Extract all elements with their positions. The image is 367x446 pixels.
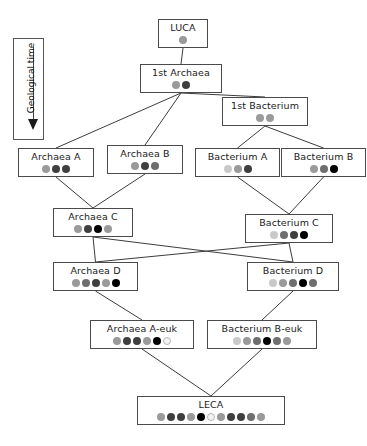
- gene-set: [143, 412, 279, 421]
- gene-dot-gray: [234, 165, 242, 173]
- gene-dot-dark: [52, 165, 60, 173]
- node-bacterium_d[interactable]: Bacterium D: [247, 262, 339, 291]
- geological-time-axis: Geological time: [13, 38, 44, 140]
- gene-set: [59, 224, 127, 233]
- gene-set: [253, 278, 333, 287]
- gene-dot-light: [233, 337, 241, 345]
- gene-dot-gray: [279, 279, 287, 287]
- gene-set: [59, 278, 132, 287]
- gene-dot-black: [112, 279, 120, 287]
- diagram-canvas: Geological time LUCA1st Archaea1st Bacte…: [0, 0, 367, 446]
- gene-set: [96, 336, 188, 345]
- gene-dot-black: [153, 337, 161, 345]
- gene-dot-white: [207, 413, 215, 421]
- node-label: Archaea A-euk: [96, 323, 188, 334]
- gene-dot-dark: [177, 413, 185, 421]
- gene-dot-dark: [182, 81, 190, 89]
- gene-dot-dark: [227, 413, 235, 421]
- gene-set: [251, 230, 327, 239]
- gene-dot-dark: [244, 165, 252, 173]
- node-label: Bacterium C: [251, 217, 327, 228]
- gene-dot-gray: [131, 162, 139, 170]
- gene-dot-dark: [123, 337, 131, 345]
- gene-dot-gray: [283, 337, 291, 345]
- node-label: Bacterium D: [253, 265, 333, 276]
- node-label: LECA: [143, 399, 279, 410]
- gene-dot-black: [197, 413, 205, 421]
- gene-dot-black: [94, 225, 102, 233]
- edge-bacterium_b-to-bacterium_c: [289, 177, 324, 214]
- edge-bacterium_d-to-bacterium_euk: [262, 291, 293, 320]
- edge-archaea_d-to-archaea_euk: [96, 291, 143, 320]
- gene-dot-light: [269, 279, 277, 287]
- node-label: Archaea A: [24, 151, 88, 162]
- gene-dot-mid: [309, 279, 317, 287]
- node-archaea_d[interactable]: Archaea D: [53, 262, 138, 291]
- node-label: Archaea C: [59, 211, 127, 222]
- node-first_archaea[interactable]: 1st Archaea: [140, 64, 222, 93]
- gene-set: [201, 164, 274, 173]
- gene-dot-mid: [82, 279, 90, 287]
- gene-dot-dark: [290, 231, 298, 239]
- node-label: Archaea D: [59, 265, 132, 276]
- edge-bacterium_c-to-bacterium_d: [289, 243, 293, 262]
- node-bacterium_a[interactable]: Bacterium A: [195, 148, 280, 177]
- edge-archaea_a-to-archaea_c: [56, 177, 93, 208]
- node-label: Bacterium A: [201, 151, 274, 162]
- gene-dot-light: [270, 231, 278, 239]
- gene-dot-gray: [113, 337, 121, 345]
- gene-dot-gray: [179, 36, 187, 44]
- gene-dot-gray: [72, 279, 80, 287]
- edge-luca-to-first_archaea: [181, 48, 183, 64]
- node-leca[interactable]: LECA: [137, 396, 285, 425]
- edge-bacterium_euk-to-leca: [211, 349, 262, 396]
- node-archaea_euk[interactable]: Archaea A-euk: [90, 320, 194, 349]
- node-archaea_a[interactable]: Archaea A: [18, 148, 94, 177]
- gene-dot-gray: [104, 225, 112, 233]
- node-first_bact[interactable]: 1st Bacterium: [222, 97, 308, 126]
- node-luca[interactable]: LUCA: [158, 19, 208, 48]
- gene-dot-mid: [151, 162, 159, 170]
- gene-dot-dark: [62, 165, 70, 173]
- node-label: Archaea B: [113, 148, 177, 159]
- gene-dot-black: [330, 165, 338, 173]
- gene-dot-mid: [273, 337, 281, 345]
- node-archaea_c[interactable]: Archaea C: [53, 208, 133, 237]
- gene-set: [213, 336, 311, 345]
- gene-dot-white: [163, 337, 171, 345]
- gene-dot-gray: [143, 337, 151, 345]
- edge-archaea_c-to-archaea_d: [93, 237, 96, 262]
- gene-dot-mid: [280, 231, 288, 239]
- gene-dot-dark: [237, 413, 245, 421]
- node-label: LUCA: [164, 22, 202, 33]
- gene-dot-black: [299, 279, 307, 287]
- edge-bacterium_c-to-archaea_d: [96, 243, 290, 262]
- gene-dot-gray: [257, 413, 265, 421]
- gene-dot-light: [224, 165, 232, 173]
- gene-dot-dark: [84, 225, 92, 233]
- gene-dot-mid: [253, 337, 261, 345]
- node-label: Bacterium B-euk: [213, 323, 311, 334]
- gene-dot-gray: [187, 413, 195, 421]
- node-label: 1st Archaea: [146, 67, 216, 78]
- node-bacterium_b[interactable]: Bacterium B: [281, 148, 366, 177]
- gene-set: [164, 35, 202, 44]
- node-bacterium_c[interactable]: Bacterium C: [245, 214, 333, 243]
- gene-dot-gray: [157, 413, 165, 421]
- geological-time-label: Geological time: [26, 30, 36, 126]
- gene-set: [113, 161, 177, 170]
- gene-dot-gray: [217, 413, 225, 421]
- edge-first_bact-to-bacterium_b: [265, 126, 324, 148]
- gene-dot-gray: [256, 114, 264, 122]
- node-bacterium_euk[interactable]: Bacterium B-euk: [207, 320, 317, 349]
- gene-dot-black: [300, 231, 308, 239]
- gene-dot-dark: [141, 162, 149, 170]
- gene-set: [146, 80, 216, 89]
- gene-dot-mid: [320, 165, 328, 173]
- gene-dot-dark: [133, 337, 141, 345]
- gene-dot-gray: [243, 337, 251, 345]
- node-archaea_b[interactable]: Archaea B: [107, 145, 183, 174]
- gene-dot-dark: [167, 413, 175, 421]
- gene-dot-gray: [266, 114, 274, 122]
- edge-archaea_b-to-archaea_c: [93, 174, 145, 208]
